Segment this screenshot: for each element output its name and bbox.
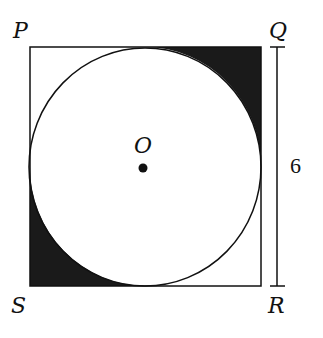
geometry-figure: P Q R S O 6 — [0, 0, 323, 338]
label-r: R — [267, 293, 285, 318]
label-q: Q — [269, 18, 287, 43]
label-p: P — [12, 18, 29, 43]
label-s: S — [11, 293, 26, 318]
center-point — [139, 164, 148, 173]
dimension-line — [270, 47, 285, 286]
shaded-region-s — [30, 167, 145, 286]
dimension-value: 6 — [290, 153, 301, 178]
shaded-region-q — [145, 47, 261, 167]
label-o: O — [134, 133, 152, 158]
